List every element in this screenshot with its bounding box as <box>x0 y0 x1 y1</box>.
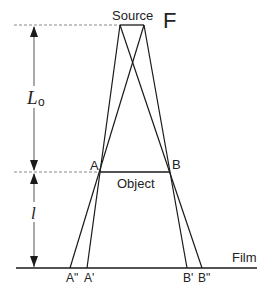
penumbra-geometry-diagram: Source F L o l A B Object Film A" A' B' … <box>0 0 267 292</box>
arrowhead-down-icon <box>30 256 38 267</box>
arrowhead-up-icon <box>30 173 38 184</box>
object-label: Object <box>117 176 155 191</box>
object-film-distance-symbol: l <box>31 204 36 223</box>
figure-letter: F <box>163 8 176 33</box>
image-b-double-prime-label: B" <box>198 271 210 285</box>
source-object-distance-subscript: o <box>38 95 45 109</box>
point-a-label: A <box>90 158 99 173</box>
arrowhead-up-icon <box>30 26 38 37</box>
film-label: Film <box>232 250 257 265</box>
image-b-prime-label: B' <box>183 271 193 285</box>
image-a-prime-label: A' <box>84 271 94 285</box>
ray-source-right-through-b <box>144 25 187 268</box>
ray-source-left-through-a <box>87 25 120 268</box>
point-b-label: B <box>172 157 181 172</box>
source-label: Source <box>112 8 153 23</box>
image-a-double-prime-label: A" <box>66 271 78 285</box>
arrowhead-down-icon <box>30 160 38 171</box>
source-object-distance-symbol: L <box>26 87 38 108</box>
ray-source-right-through-a <box>70 25 144 268</box>
